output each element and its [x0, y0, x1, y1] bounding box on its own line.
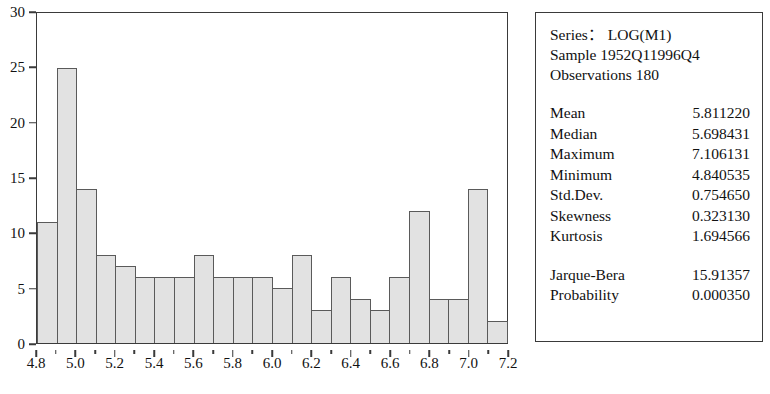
x-axis-tick-mark [153, 350, 155, 357]
statistics-panel: Series： LOG(M1) Sample 1952Q11996Q4 Obse… [535, 12, 763, 342]
x-axis-tick-mark [350, 350, 352, 357]
histogram-bar [37, 222, 58, 343]
histogram-bar [468, 189, 489, 343]
y-axis-tick-mark [29, 11, 36, 13]
y-axis-tick-mark [29, 288, 36, 290]
x-axis: 4.85.05.25.45.65.86.06.26.46.66.87.07.2 [36, 350, 508, 380]
x-axis-tick-label: 6.6 [381, 356, 400, 371]
histogram-bar [174, 277, 195, 343]
stat-label: Skewness [550, 206, 658, 227]
x-axis-minor-tick-mark [488, 350, 490, 354]
x-axis-tick-label: 5.8 [223, 356, 242, 371]
x-axis-minor-tick-mark [330, 350, 332, 354]
x-axis-tick-label: 5.4 [145, 356, 164, 371]
stat-value: 4.840535 [658, 165, 750, 186]
x-axis-tick-mark [35, 350, 37, 357]
histogram-bar [76, 189, 97, 343]
histogram-bar [389, 277, 410, 343]
x-axis-tick-mark [507, 350, 509, 357]
x-axis-tick-mark [114, 350, 116, 357]
x-axis-tick-label: 5.6 [184, 356, 203, 371]
y-axis-tick-mark [29, 343, 36, 345]
statistic-row: Mean5.811220 [550, 103, 762, 124]
y-axis-tick-label: 25 [10, 60, 25, 75]
descriptive-statistics-list: Mean5.811220Median5.698431Maximum7.10613… [550, 103, 762, 247]
histogram-bar [350, 299, 371, 343]
statistic-row: Skewness0.323130 [550, 206, 762, 227]
histogram-bar [194, 255, 215, 343]
x-axis-tick-label: 5.0 [66, 356, 85, 371]
stat-value: 0.323130 [658, 206, 750, 227]
stat-label: Jarque-Bera [550, 265, 658, 286]
y-axis-tick-mark [29, 233, 36, 235]
observations-label: Observations 180 [550, 65, 762, 85]
normality-test-list: Jarque-Bera15.91357Probability0.000350 [550, 265, 762, 306]
stat-label: Mean [550, 103, 658, 124]
test-statistic-row: Probability0.000350 [550, 285, 762, 306]
x-axis-tick-label: 6.4 [341, 356, 360, 371]
statistic-row: Maximum7.106131 [550, 144, 762, 165]
series-label: Series： LOG(M1) [550, 25, 762, 45]
histogram-bar [252, 277, 273, 343]
x-axis-minor-tick-mark [134, 350, 136, 354]
x-axis-tick-mark [468, 350, 470, 357]
x-axis-minor-tick-mark [291, 350, 293, 354]
stat-label: Median [550, 124, 658, 145]
y-axis: 051015202530 [0, 0, 36, 394]
y-axis-tick-label: 15 [10, 171, 25, 186]
x-axis-tick-mark [389, 350, 391, 357]
x-axis-minor-tick-mark [448, 350, 450, 354]
stats-spacer [550, 85, 762, 103]
x-axis-tick-label: 7.0 [459, 356, 478, 371]
y-axis-tick-label: 10 [10, 226, 25, 241]
x-axis-tick-mark [232, 350, 234, 357]
histogram-bar [135, 277, 156, 343]
test-statistic-row: Jarque-Bera15.91357 [550, 265, 762, 286]
x-axis-tick-mark [75, 350, 77, 357]
x-axis-minor-tick-mark [173, 350, 175, 354]
stat-value: 7.106131 [658, 144, 750, 165]
histogram-bar [213, 277, 234, 343]
histogram-bar [429, 299, 450, 343]
statistic-row: Minimum4.840535 [550, 165, 762, 186]
stat-label: Kurtosis [550, 226, 658, 247]
sample-label: Sample 1952Q11996Q4 [550, 45, 762, 65]
x-axis-minor-tick-mark [252, 350, 254, 354]
histogram-bar [448, 299, 469, 343]
stat-value: 0.754650 [658, 185, 750, 206]
stat-value: 5.698431 [658, 124, 750, 145]
histogram-bar [96, 255, 117, 343]
stat-label: Std.Dev. [550, 185, 658, 206]
x-axis-tick-label: 7.2 [499, 356, 518, 371]
x-axis-tick-label: 6.2 [302, 356, 321, 371]
y-axis-tick-mark [29, 122, 36, 124]
histogram-bars [37, 13, 507, 343]
x-axis-minor-tick-mark [212, 350, 214, 354]
histogram-bar [292, 255, 313, 343]
histogram-bar [487, 321, 508, 343]
statistic-row: Median5.698431 [550, 124, 762, 145]
x-axis-tick-mark [311, 350, 313, 357]
stat-label: Probability [550, 285, 658, 306]
histogram-bar [233, 277, 254, 343]
x-axis-minor-tick-mark [55, 350, 57, 354]
x-axis-tick-mark [271, 350, 273, 357]
histogram-bar [331, 277, 352, 343]
y-axis-tick-mark [29, 67, 36, 69]
y-axis-tick-mark [29, 177, 36, 179]
histogram-bar [311, 310, 332, 343]
x-axis-minor-tick-mark [409, 350, 411, 354]
statistic-row: Std.Dev.0.754650 [550, 185, 762, 206]
stat-value: 1.694566 [658, 226, 750, 247]
y-axis-tick-label: 0 [18, 337, 26, 352]
x-axis-minor-tick-mark [94, 350, 96, 354]
histogram-bar [154, 277, 175, 343]
stat-value: 5.811220 [658, 103, 750, 124]
histogram-bar [272, 288, 293, 343]
y-axis-tick-label: 30 [10, 5, 25, 20]
plot-frame [36, 12, 508, 344]
x-axis-tick-mark [193, 350, 195, 357]
stat-label: Maximum [550, 144, 658, 165]
x-axis-tick-label: 4.8 [27, 356, 46, 371]
x-axis-tick-label: 6.0 [263, 356, 282, 371]
